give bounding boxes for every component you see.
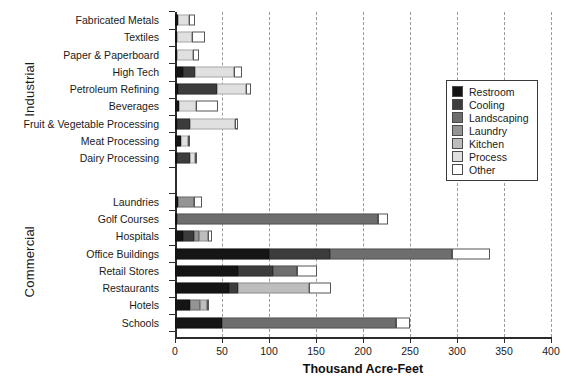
x-tick-label-400: 400	[542, 345, 560, 357]
legend-swatch-kitchen	[452, 138, 463, 149]
legend-label: Other	[469, 164, 495, 176]
bar-segment-restroom	[175, 317, 222, 328]
bar-segment-other	[235, 118, 238, 129]
bar-segment-other	[309, 283, 331, 294]
bar-row: High Tech	[0, 63, 566, 80]
bar-segment-other	[207, 300, 209, 311]
x-tick-label-300: 300	[448, 345, 466, 357]
x-tick-150	[316, 337, 317, 343]
y-axis-label: Retail Stores	[99, 265, 159, 277]
bar-segment-other	[195, 153, 197, 164]
x-tick-label-200: 200	[354, 345, 372, 357]
bar-segment-other	[196, 101, 219, 112]
y-axis-label: Meat Processing	[81, 135, 159, 147]
bar-segment-cooling	[229, 283, 238, 294]
bar-segment-landscaping	[330, 248, 452, 259]
bar-row: Hotels	[0, 297, 566, 314]
y-axis-label: Fruit & Vegetable Processing	[24, 118, 159, 130]
y-axis-label: Beverages	[109, 100, 159, 112]
bar-segment-restroom	[175, 248, 269, 259]
bar-segment-kitchen	[238, 283, 309, 294]
bar-segment-laundry	[190, 300, 200, 311]
bar-segment-other	[246, 84, 251, 95]
y-axis-label: Paper & Paperboard	[63, 49, 159, 61]
bar-segment-process	[190, 118, 235, 129]
legend-label: Process	[469, 151, 507, 163]
legend-label: Laundry	[469, 125, 507, 137]
bar-segment-kitchen	[199, 231, 207, 242]
x-tick-50	[222, 337, 223, 343]
stacked-bar	[175, 84, 251, 95]
bar-segment-other	[378, 213, 388, 224]
stacked-bar	[175, 196, 202, 207]
stacked-bar	[175, 317, 410, 328]
x-tick-label-100: 100	[260, 345, 278, 357]
bar-segment-landscaping	[222, 317, 396, 328]
legend: RestroomCoolingLandscapingLaundryKitchen…	[446, 80, 538, 181]
stacked-bar	[175, 231, 212, 242]
bar-segment-restroom	[175, 283, 229, 294]
bar-segment-other	[396, 317, 410, 328]
bar-segment-cooling	[269, 248, 330, 259]
bar-segment-kitchen	[200, 300, 207, 311]
bar-segment-process	[181, 136, 189, 147]
bar-row: Retail Stores	[0, 262, 566, 279]
legend-item-landscaping[interactable]: Landscaping	[452, 111, 529, 124]
bar-segment-restroom	[175, 66, 183, 77]
group-label-industrial: Industrial	[22, 11, 37, 167]
bar-segment-other	[234, 66, 242, 77]
group-label-commercial: Commercial	[22, 193, 37, 331]
bar-segment-other	[189, 14, 195, 25]
stacked-bar	[175, 32, 205, 43]
legend-swatch-other	[452, 164, 463, 175]
bar-segment-other	[194, 196, 202, 207]
legend-swatch-landscaping	[452, 112, 463, 123]
bar-segment-process	[178, 14, 189, 25]
stacked-bar	[175, 49, 199, 60]
bar-segment-process	[195, 66, 234, 77]
stacked-bar-chart: 050100150200250300350400 Fabricated Meta…	[0, 0, 566, 390]
bar-segment-other	[188, 136, 190, 147]
legend-item-kitchen[interactable]: Kitchen	[452, 137, 529, 150]
stacked-bar	[175, 248, 490, 259]
x-tick-200	[363, 337, 364, 343]
bar-segment-cooling	[177, 118, 190, 129]
bar-segment-restroom	[175, 231, 183, 242]
y-axis-label: Dairy Processing	[80, 152, 159, 164]
y-axis-label: Golf Courses	[98, 213, 159, 225]
bar-row: Fabricated Metals	[0, 11, 566, 28]
x-tick-0	[175, 337, 176, 343]
bar-segment-cooling	[183, 231, 193, 242]
stacked-bar	[175, 118, 238, 129]
y-axis-label: Office Buildings	[86, 248, 159, 260]
bar-segment-process	[177, 49, 193, 60]
y-axis-label: Hospitals	[116, 230, 159, 242]
bar-segment-other	[208, 231, 212, 242]
legend-label: Restroom	[469, 86, 515, 98]
bar-segment-cooling	[183, 66, 194, 77]
legend-item-cooling[interactable]: Cooling	[452, 98, 529, 111]
bar-row: Paper & Paperboard	[0, 46, 566, 63]
stacked-bar	[175, 283, 331, 294]
x-tick-300	[457, 337, 458, 343]
bar-segment-other	[452, 248, 490, 259]
bar-row: Laundries	[0, 193, 566, 210]
stacked-bar	[175, 66, 242, 77]
legend-item-restroom[interactable]: Restroom	[452, 85, 529, 98]
bar-row: Office Buildings	[0, 245, 566, 262]
legend-swatch-restroom	[452, 86, 463, 97]
bar-segment-restroom	[175, 265, 238, 276]
y-axis-label: Petroleum Refining	[70, 83, 159, 95]
bar-segment-cooling	[178, 84, 217, 95]
legend-swatch-laundry	[452, 125, 463, 136]
stacked-bar	[175, 101, 218, 112]
legend-label: Kitchen	[469, 138, 504, 150]
y-axis-label: Schools	[122, 317, 159, 329]
legend-item-laundry[interactable]: Laundry	[452, 124, 529, 137]
bar-segment-laundry	[178, 196, 194, 207]
legend-item-process[interactable]: Process	[452, 150, 529, 163]
bar-segment-cooling	[177, 153, 190, 164]
bar-row: Restaurants	[0, 280, 566, 297]
x-tick-label-0: 0	[172, 345, 178, 357]
legend-item-other[interactable]: Other	[452, 163, 529, 176]
